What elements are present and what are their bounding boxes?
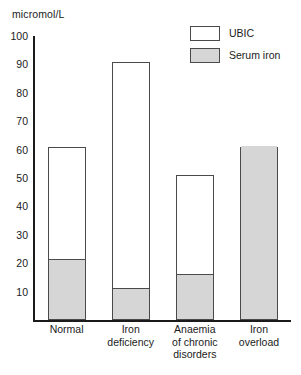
bar-segment-serum-iron [113, 288, 149, 319]
y-tick-label-20: 20 [16, 258, 28, 269]
y-tick-label-10: 10 [16, 286, 28, 297]
x-category-label: Normal [35, 323, 99, 336]
y-tick-label-40: 40 [16, 201, 28, 212]
y-axis-title: micromol/L [12, 8, 64, 20]
x-category-label: Iron deficiency [99, 323, 163, 348]
bar-stack [48, 147, 86, 320]
bar-stack [112, 62, 150, 320]
y-tick-label-50: 50 [16, 173, 28, 184]
bar-group [240, 36, 278, 320]
bar-stack [240, 147, 278, 320]
y-tick-label-100: 100 [10, 31, 28, 42]
y-tick-label-60: 60 [16, 144, 28, 155]
y-tick-label-30: 30 [16, 230, 28, 241]
iron-studies-stacked-bar-chart: micromol/L UBIC Serum iron 1020304050607… [0, 0, 301, 375]
x-category-label: Anaemia of chronic disorders [163, 323, 227, 361]
bar-stack [176, 175, 214, 320]
bar-series-container [35, 36, 292, 320]
x-axis-line [33, 320, 291, 322]
bar-segment-serum-iron [49, 259, 85, 319]
plot-area: 102030405060708090100 NormalIron deficie… [33, 36, 291, 320]
bar-segment-serum-iron [177, 274, 213, 319]
y-tick-label-70: 70 [16, 116, 28, 127]
bar-group [112, 36, 150, 320]
y-tick-label-90: 90 [16, 59, 28, 70]
x-category-label: Iron overload [227, 323, 291, 348]
bar-group [176, 36, 214, 320]
bar-group [48, 36, 86, 320]
bar-segment-serum-iron [241, 146, 277, 319]
y-tick-label-80: 80 [16, 88, 28, 99]
